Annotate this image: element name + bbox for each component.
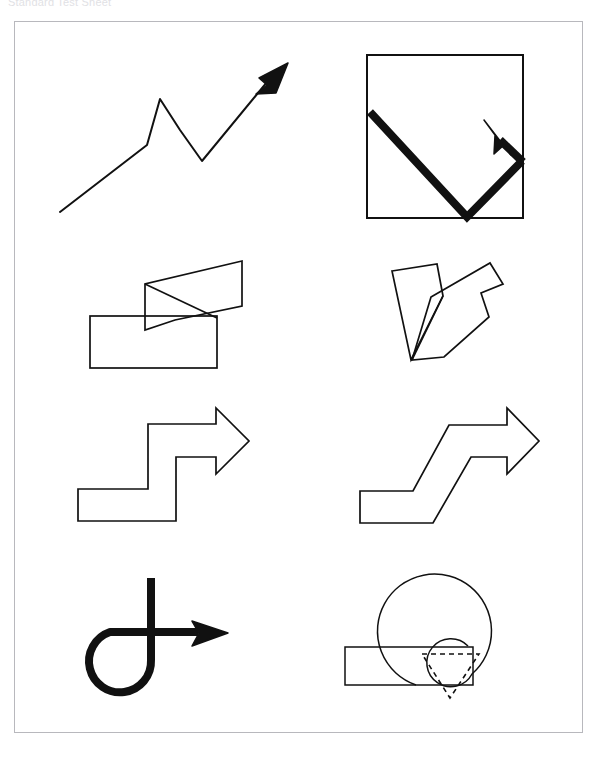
figure-region-5[interactable]	[70, 400, 255, 530]
figure-region-2[interactable]	[360, 50, 535, 228]
figure-region-7[interactable]	[92, 570, 234, 690]
plate-page: Standard Test Sheet	[0, 0, 605, 760]
figure-region-6[interactable]	[352, 400, 544, 530]
figure-region-1[interactable]	[50, 50, 305, 225]
clipped-header: Standard Test Sheet	[8, 0, 308, 9]
figure-region-8[interactable]	[340, 555, 535, 705]
clipped-header-text: Standard Test Sheet	[8, 0, 308, 8]
figure-region-3[interactable]	[85, 255, 250, 375]
figure-region-4[interactable]	[385, 255, 510, 367]
